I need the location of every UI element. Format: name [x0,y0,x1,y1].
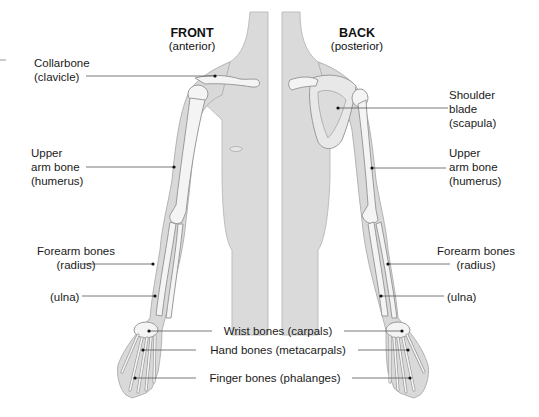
front-view-header: FRONT (anterior) [160,27,224,53]
label-front-humerus: Upper arm bone (humerus) [31,146,83,188]
front-subtitle: (anterior) [160,40,224,53]
front-figure [117,12,268,398]
label-phalanges: Finger bones (phalanges) [190,371,360,385]
front-torso [195,12,268,335]
back-figure [282,12,429,398]
label-carpals: Wrist bones (carpals) [204,324,352,338]
label-front-radius: Forearm bones (radius) [28,244,124,272]
label-scapula: Shoulder blade (scapula) [449,88,496,130]
back-view-header: BACK (posterior) [322,27,392,53]
navel [230,147,242,152]
front-title: FRONT [160,27,224,40]
label-back-radius: Forearm bones (radius) [428,244,524,272]
back-title: BACK [322,27,392,40]
back-subtitle: (posterior) [322,40,392,53]
label-front-ulna: (ulna) [50,290,79,304]
label-back-humerus: Upper arm bone (humerus) [449,146,501,188]
label-metacarpals: Hand bones (metacarpals) [190,343,366,357]
label-collarbone: Collarbone (clavicle) [34,56,90,84]
back-torso [282,12,356,335]
label-back-ulna: (ulna) [447,290,476,304]
